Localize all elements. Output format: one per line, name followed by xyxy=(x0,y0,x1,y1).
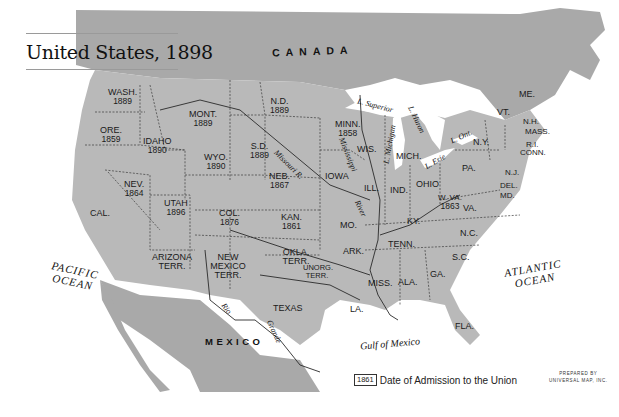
state-label-la: LA. xyxy=(350,305,364,314)
state-label-texas: TEXAS xyxy=(273,304,303,313)
state-label-ala: ALA. xyxy=(398,278,418,287)
legend: 1861 Date of Admission to the Union xyxy=(354,374,517,386)
state-label-nh: N.H. xyxy=(523,117,539,126)
state-label-fla: FLA. xyxy=(455,322,474,331)
state-label-wash: WASH.1889 xyxy=(108,88,137,106)
state-label-neb: NEB.1867 xyxy=(269,172,290,190)
state-label-wyo: WYO.1890 xyxy=(204,153,228,171)
state-label-utah: UTAH1896 xyxy=(164,199,188,217)
page-title: United States, 1898 xyxy=(26,41,213,63)
state-label-ore: ORE.1859 xyxy=(100,126,122,144)
state-label-nj: N.J. xyxy=(505,168,519,177)
state-label-idaho: IDAHO1890 xyxy=(143,137,172,155)
state-label-mo: MO. xyxy=(340,221,357,230)
state-label-ill: ILL. xyxy=(364,184,379,193)
state-label-unorg-terr: UNORG. TERR. xyxy=(303,264,331,279)
legend-sample-year: 1861 xyxy=(354,374,377,386)
state-label-del: DEL. xyxy=(500,181,518,190)
state-label-conn: CONN. xyxy=(520,148,546,157)
state-label-ny: N.Y. xyxy=(473,138,489,147)
state-label-arizona-terr: ARIZONA TERR. xyxy=(151,253,193,271)
state-label-ga: GA. xyxy=(430,270,446,279)
state-label-mich: MICH. xyxy=(396,152,422,161)
state-label-w-va: W. VA.1863 xyxy=(438,193,462,211)
state-label-mont: MONT.1889 xyxy=(189,110,217,128)
state-label-new-mexico-terr: NEW MEXICO TERR. xyxy=(207,253,249,280)
state-label-sd: S.D.1889 xyxy=(250,142,269,160)
state-label-md: MD. xyxy=(500,191,515,200)
state-label-minn: MINN.1858 xyxy=(335,120,361,138)
state-label-me: ME. xyxy=(519,90,535,99)
state-label-iowa: IOWA xyxy=(325,172,349,181)
state-label-nd: N.D.1889 xyxy=(270,97,289,115)
title-rule-top xyxy=(26,33,178,34)
state-label-va: VA. xyxy=(463,204,477,213)
state-label-nev: NEV.1864 xyxy=(124,180,144,198)
title-rule-bottom xyxy=(26,69,178,70)
state-label-cal: CAL. xyxy=(90,209,110,218)
state-label-kan: KAN.1861 xyxy=(281,213,302,231)
state-label-wis: WIS. xyxy=(357,145,377,154)
legend-text: Date of Admission to the Union xyxy=(380,375,517,386)
state-label-nc: N.C. xyxy=(460,229,478,238)
state-label-ky: KY. xyxy=(407,217,420,226)
credit-line: UNIVERSAL MAP, INC. xyxy=(549,377,608,384)
state-label-ohio: OHIO xyxy=(416,180,439,189)
state-label-tenn: TENN. xyxy=(388,240,415,249)
map-credit: PREPARED BY UNIVERSAL MAP, INC. xyxy=(549,370,608,384)
state-label-vt: VT. xyxy=(497,108,510,117)
state-label-col: COL.1876 xyxy=(219,209,240,227)
state-label-sc: S.C. xyxy=(452,253,470,262)
state-label-pa: PA. xyxy=(462,164,476,173)
state-label-mass: MASS. xyxy=(525,127,550,136)
country-label-mexico: MEXICO xyxy=(205,336,263,347)
credit-line: PREPARED BY xyxy=(549,370,608,377)
state-label-miss: MISS. xyxy=(368,279,393,288)
state-label-ind: IND. xyxy=(390,186,408,195)
state-label-ark: ARK. xyxy=(343,247,364,256)
